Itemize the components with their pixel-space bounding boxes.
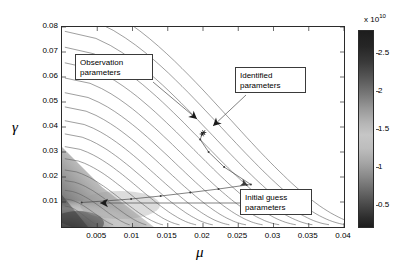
colorbar-tick-labels: 0.511.522.5	[376, 30, 401, 228]
optimization-path-line	[82, 134, 251, 203]
optimization-path-point	[189, 192, 191, 194]
callout-arrow-line	[153, 82, 197, 119]
x-tick-label: 0.035	[288, 232, 328, 240]
optimization-path-point	[218, 188, 220, 190]
colorbar-tick-mark	[376, 53, 379, 54]
colorbar-tick-mark	[376, 167, 379, 168]
x-tick-label: 0.03	[253, 232, 293, 240]
observation-parameters-callout: Observation parameters	[75, 54, 153, 80]
callout-line-1: Initial guess	[245, 193, 307, 203]
y-tick-label: 0.01	[24, 197, 58, 205]
y-tick-label: 0.04	[24, 122, 58, 130]
callout-line-2: parameters	[245, 203, 307, 213]
x-tick-label: 0.025	[217, 232, 257, 240]
x-axis-label: μ	[196, 244, 204, 261]
y-tick-label: 0.03	[24, 147, 58, 155]
colorbar-exponent-label: x 1010	[364, 12, 386, 24]
x-tick-label: 0.01	[112, 232, 152, 240]
colorbar-tick-label: 0.5	[378, 201, 389, 209]
y-tick-label: 0.06	[24, 72, 58, 80]
colorbar-tick-label: 2.5	[378, 49, 389, 57]
y-tick-label: 0.07	[24, 47, 58, 55]
optimization-path-point	[81, 202, 83, 204]
x-tick-label: 0.005	[76, 232, 116, 240]
optimization-path-point	[130, 198, 132, 200]
callout-arrows	[100, 82, 246, 203]
colorbar-tick-mark	[376, 205, 379, 206]
optimization-path-point	[199, 139, 201, 141]
callout-line-1: Observation	[80, 58, 148, 68]
initial-guess-parameters-callout: Initial guess parameters	[240, 189, 312, 215]
callout-line-1: Identified	[240, 71, 301, 81]
parameter-markers	[200, 130, 207, 136]
callout-line-2: parameters	[80, 68, 148, 78]
colorbar-gradient	[359, 31, 373, 227]
colorbar-tick-mark	[376, 129, 379, 130]
colorbar-tick-mark	[376, 91, 379, 92]
optimization-path-point	[208, 151, 210, 153]
identified-parameters-callout: Identified parameters	[235, 67, 306, 93]
y-tick-label: 0.02	[24, 172, 58, 180]
optimization-path	[82, 134, 251, 203]
optimization-path-point	[223, 166, 225, 168]
callout-arrowheads	[100, 111, 222, 208]
colorbar	[358, 30, 374, 228]
x-tick-label: 0.015	[147, 232, 187, 240]
y-axis-tick-labels: 0.010.020.030.040.050.060.070.08	[20, 26, 58, 228]
optimization-path-point	[160, 195, 162, 197]
colorbar-tick-label: 1.5	[378, 125, 389, 133]
figure-root: γ μ 0.010.020.030.040.050.060.070.08 0.0…	[0, 0, 401, 273]
x-axis-tick-labels: 0.0050.010.0150.020.0250.030.0350.04	[61, 232, 345, 244]
y-tick-label: 0.08	[24, 22, 58, 30]
callout-arrow-line	[213, 95, 246, 126]
optimization-path-point	[250, 184, 252, 186]
y-tick-label: 0.05	[24, 97, 58, 105]
x-tick-label: 0.02	[182, 232, 222, 240]
x-tick-label: 0.04	[323, 232, 363, 240]
callout-line-2: parameters	[240, 81, 301, 91]
y-axis-label: γ	[12, 119, 18, 136]
